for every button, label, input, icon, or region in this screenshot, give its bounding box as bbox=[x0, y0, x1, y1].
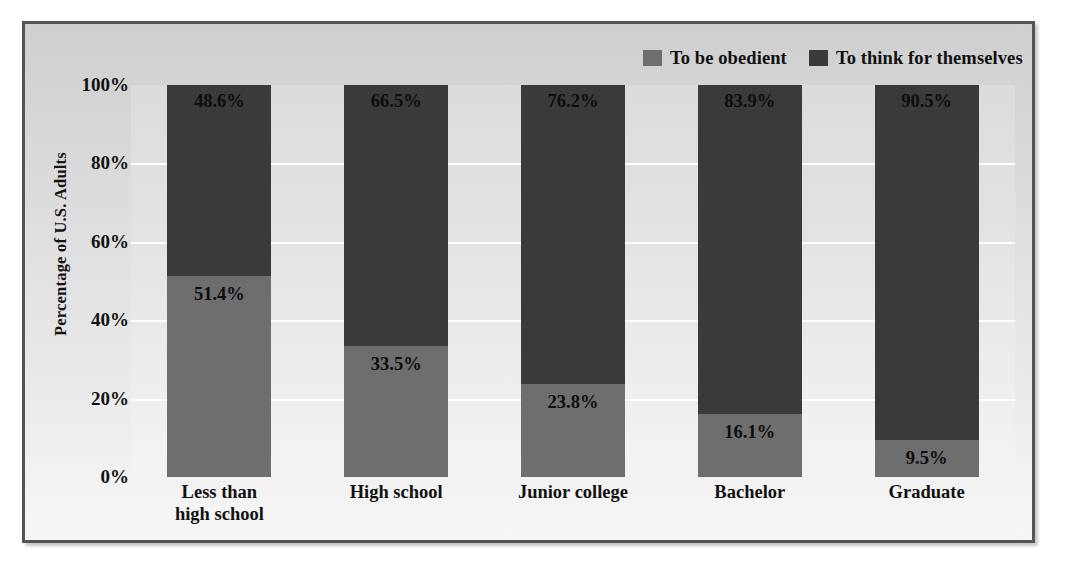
x-axis-category-labels: Less thanhigh schoolHigh schoolJunior co… bbox=[131, 482, 1015, 526]
x-axis-label-4: Bachelor bbox=[680, 482, 820, 526]
x-axis-label-line: Junior college bbox=[503, 482, 643, 504]
bar-segment-think-for-themselves-5[interactable]: 90.5% bbox=[875, 85, 979, 440]
legend-label-obedient: To be obedient bbox=[670, 48, 787, 69]
bar-group-1[interactable]: 48.6%51.4% bbox=[167, 85, 271, 477]
bar-segment-obedient-3[interactable]: 23.8% bbox=[521, 384, 625, 477]
y-tick-label-100: 100% bbox=[59, 74, 129, 96]
chart-figure: To be obedient To think for themselves P… bbox=[22, 21, 1035, 543]
bar-value-label-think-for-themselves-1: 48.6% bbox=[167, 91, 271, 112]
y-tick-label-20: 20% bbox=[59, 388, 129, 410]
bar-segment-obedient-4[interactable]: 16.1% bbox=[698, 414, 802, 477]
y-tick-label-80: 80% bbox=[59, 152, 129, 174]
legend-item-think-for-themselves[interactable]: To think for themselves bbox=[809, 48, 1023, 69]
bar-value-label-obedient-4: 16.1% bbox=[698, 422, 802, 443]
y-axis-tick-labels: 100%80%60%40%20%0% bbox=[55, 24, 129, 540]
y-tick-label-40: 40% bbox=[59, 309, 129, 331]
bar-segment-think-for-themselves-4[interactable]: 83.9% bbox=[698, 85, 802, 414]
legend-item-obedient[interactable]: To be obedient bbox=[643, 48, 787, 69]
x-axis-label-5: Graduate bbox=[857, 482, 997, 526]
legend-label-think-for-themselves: To think for themselves bbox=[836, 48, 1023, 69]
bar-value-label-think-for-themselves-5: 90.5% bbox=[875, 91, 979, 112]
legend-swatch-think-for-themselves bbox=[809, 50, 828, 66]
bar-value-label-obedient-5: 9.5% bbox=[875, 448, 979, 469]
bar-segment-obedient-2[interactable]: 33.5% bbox=[344, 346, 448, 477]
bar-value-label-obedient-1: 51.4% bbox=[167, 284, 271, 305]
x-axis-label-3: Junior college bbox=[503, 482, 643, 526]
x-axis-label-2: High school bbox=[326, 482, 466, 526]
bar-group-2[interactable]: 66.5%33.5% bbox=[344, 85, 448, 477]
bar-series-container: 48.6%51.4%66.5%33.5%76.2%23.8%83.9%16.1%… bbox=[131, 85, 1015, 477]
legend-swatch-obedient bbox=[643, 50, 662, 66]
y-tick-label-0: 0% bbox=[59, 466, 129, 488]
x-axis-label-line: High school bbox=[326, 482, 466, 504]
bar-value-label-obedient-3: 23.8% bbox=[521, 392, 625, 413]
bar-segment-obedient-1[interactable]: 51.4% bbox=[167, 276, 271, 477]
chart-legend: To be obedient To think for themselves bbox=[643, 45, 1023, 71]
y-tick-label-60: 60% bbox=[59, 231, 129, 253]
bar-value-label-obedient-2: 33.5% bbox=[344, 354, 448, 375]
bar-value-label-think-for-themselves-2: 66.5% bbox=[344, 91, 448, 112]
bar-segment-think-for-themselves-2[interactable]: 66.5% bbox=[344, 85, 448, 346]
bar-segment-think-for-themselves-1[interactable]: 48.6% bbox=[167, 85, 271, 276]
x-axis-label-line: high school bbox=[149, 504, 289, 526]
bar-group-3[interactable]: 76.2%23.8% bbox=[521, 85, 625, 477]
x-axis-label-line: Bachelor bbox=[680, 482, 820, 504]
x-axis-label-line: Graduate bbox=[857, 482, 997, 504]
x-axis-label-line: Less than bbox=[149, 482, 289, 504]
plot-area: 48.6%51.4%66.5%33.5%76.2%23.8%83.9%16.1%… bbox=[131, 85, 1015, 477]
bar-segment-obedient-5[interactable]: 9.5% bbox=[875, 440, 979, 477]
bar-value-label-think-for-themselves-4: 83.9% bbox=[698, 91, 802, 112]
bar-value-label-think-for-themselves-3: 76.2% bbox=[521, 91, 625, 112]
bar-group-5[interactable]: 90.5%9.5% bbox=[875, 85, 979, 477]
bar-segment-think-for-themselves-3[interactable]: 76.2% bbox=[521, 85, 625, 384]
bar-group-4[interactable]: 83.9%16.1% bbox=[698, 85, 802, 477]
x-axis-label-1: Less thanhigh school bbox=[149, 482, 289, 526]
